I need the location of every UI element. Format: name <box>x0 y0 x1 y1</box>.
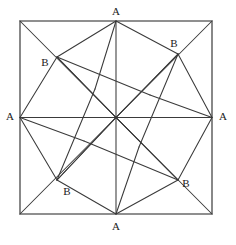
star-segment <box>57 89 95 180</box>
star-segment <box>116 21 178 54</box>
diagram-canvas: A A A A B B B B <box>0 0 236 245</box>
star-figure: A A A A B B B B <box>0 0 236 245</box>
vertex-label-a-top: A <box>112 5 120 17</box>
star-segment <box>57 118 116 181</box>
star-segment <box>150 95 212 118</box>
star-segment <box>20 118 57 181</box>
star-segment <box>116 54 178 118</box>
star-segment <box>139 54 178 147</box>
star-segment <box>84 141 178 180</box>
star-segment <box>116 180 178 214</box>
star-segment <box>20 57 57 118</box>
star-segment <box>20 118 84 142</box>
vertex-label-b-topleft: B <box>41 56 48 68</box>
star-segment <box>57 21 116 57</box>
vertex-label-a-bottom: A <box>112 220 120 232</box>
star-segment <box>178 118 212 181</box>
vertex-label-b-bottomleft: B <box>63 185 70 197</box>
vertex-label-a-right: A <box>219 110 227 122</box>
vertex-label-b-topright: B <box>170 37 177 49</box>
vertex-label-a-left: A <box>6 110 14 122</box>
star-segment <box>178 54 212 118</box>
vertex-label-b-bottomright: B <box>182 177 189 189</box>
star-segment <box>116 147 139 214</box>
star-segment <box>95 21 116 89</box>
